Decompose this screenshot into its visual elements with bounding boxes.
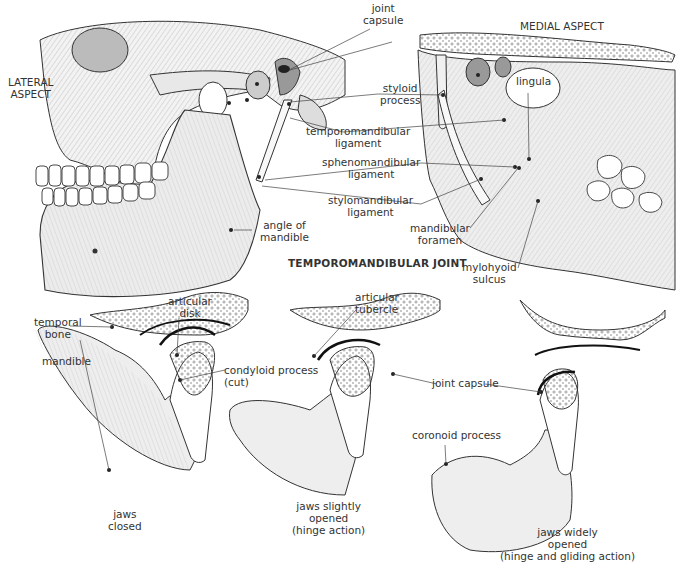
panel-slightly-opened (229, 293, 440, 495)
caption-line: closed (108, 520, 142, 532)
label-angle-of-mandible: angle of mandible (260, 219, 309, 243)
label-line: mylohyoid (462, 261, 517, 273)
label-line: bone (34, 328, 82, 340)
lateral-aspect-heading: LATERAL ASPECT (8, 76, 53, 100)
label-line: sulcus (462, 273, 517, 285)
panel-caption-slightly-opened: jaws slightly opened (hinge action) (292, 500, 365, 536)
heading-line: LATERAL (8, 76, 53, 88)
label-line: mandibular (410, 222, 470, 234)
panel-caption-widely-opened: jaws widely opened (hinge and gliding ac… (500, 526, 635, 562)
label-line: capsule (363, 14, 403, 26)
label-stylomandibular-ligament: stylomandibular ligament (328, 194, 413, 218)
panel-caption-closed: jaws closed (108, 508, 142, 532)
label-styloid-process: styloid process (380, 82, 420, 106)
label-line: (cut) (224, 376, 318, 388)
label-temporomandibular-ligament: temporomandibular ligament (306, 125, 410, 149)
label-line: styloid (380, 82, 420, 94)
label-line: tubercle (355, 303, 399, 315)
medial-skull (418, 33, 675, 290)
label-line: angle of (260, 219, 309, 231)
label-line: sphenomandibular (322, 156, 420, 168)
caption-line: (hinge action) (292, 524, 365, 536)
label-line: disk (168, 307, 212, 319)
label-mandibular-foramen: mandibular foramen (410, 222, 470, 246)
label-line: ligament (328, 206, 413, 218)
panel-widely-opened (432, 300, 665, 552)
label-line: articular (168, 295, 212, 307)
caption-line: opened (500, 538, 635, 550)
label-line: ligament (306, 137, 410, 149)
label-lingula: lingula (516, 75, 551, 87)
label-temporal-bone: temporal bone (34, 316, 82, 340)
label-articular-tubercle: articular tubercle (355, 291, 399, 315)
heading-line: ASPECT (8, 88, 53, 100)
label-articular-disk: articular disk (168, 295, 212, 319)
label-line: ligament (322, 168, 420, 180)
label-condyloid-process: condyloid process (cut) (224, 364, 318, 388)
label-line: condyloid process (224, 364, 318, 376)
anatomical-drawing (0, 0, 684, 578)
label-line: stylomandibular (328, 194, 413, 206)
caption-line: (hinge and gliding action) (500, 550, 635, 562)
label-line: articular (355, 291, 399, 303)
label-coronoid-process: coronoid process (412, 429, 501, 441)
caption-line: jaws (108, 508, 142, 520)
label-line: process (380, 94, 420, 106)
label-line: mandible (260, 231, 309, 243)
label-line: temporal (34, 316, 82, 328)
label-joint-capsule-top: joint capsule (363, 2, 403, 26)
figure-title: TEMPOROMANDIBULAR JOINT (288, 257, 467, 269)
label-line: temporomandibular (306, 125, 410, 137)
caption-line: opened (292, 512, 365, 524)
label-line: joint (363, 2, 403, 14)
lateral-skull (36, 21, 345, 296)
label-mandible: mandible (42, 355, 91, 367)
label-joint-capsule-bottom: joint capsule (432, 377, 499, 389)
caption-line: jaws slightly (292, 500, 365, 512)
label-sphenomandibular-ligament: sphenomandibular ligament (322, 156, 420, 180)
caption-line: jaws widely (500, 526, 635, 538)
label-mylohyoid-sulcus: mylohyoid sulcus (462, 261, 517, 285)
label-line: foramen (410, 234, 470, 246)
medial-aspect-heading: MEDIAL ASPECT (520, 20, 604, 32)
tmj-illustration: LATERAL ASPECT MEDIAL ASPECT joint capsu… (0, 0, 684, 578)
